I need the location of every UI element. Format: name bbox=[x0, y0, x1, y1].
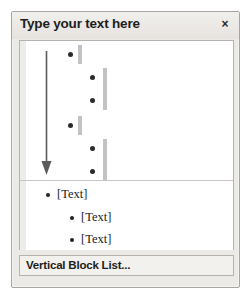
layout-name-bar[interactable]: Vertical Block List... bbox=[19, 255, 234, 276]
page-title: Type your text here bbox=[20, 16, 140, 31]
text-pane-content: [Text][Text][Text] bbox=[19, 40, 234, 250]
preview-block-bar bbox=[78, 116, 82, 135]
down-arrow-icon bbox=[41, 51, 52, 175]
close-icon[interactable]: × bbox=[218, 17, 232, 31]
bullet-icon bbox=[46, 193, 50, 197]
text-entry-region[interactable]: [Text][Text][Text] bbox=[20, 181, 233, 250]
preview-left-strip bbox=[20, 41, 26, 180]
preview-bullet bbox=[90, 75, 95, 80]
preview-bullet bbox=[68, 123, 73, 128]
text-pane-titlebar: Type your text here × bbox=[12, 12, 239, 39]
smartart-text-pane: Type your text here × [Text][Text][Text]… bbox=[11, 11, 240, 288]
preview-block-bar bbox=[103, 68, 107, 110]
preview-bullet bbox=[68, 52, 73, 57]
text-entry-label[interactable]: [Text] bbox=[57, 187, 87, 202]
preview-bullet bbox=[90, 169, 95, 174]
text-entry-row[interactable]: [Text] bbox=[46, 187, 87, 202]
text-entry-label[interactable]: [Text] bbox=[81, 232, 111, 247]
text-entry-label[interactable]: [Text] bbox=[81, 210, 111, 225]
preview-bullet bbox=[90, 98, 95, 103]
bullet-icon bbox=[70, 216, 74, 220]
text-entry-row[interactable]: [Text] bbox=[70, 232, 111, 247]
graphic-preview-region[interactable] bbox=[20, 41, 233, 181]
bullet-icon bbox=[70, 238, 74, 242]
text-left-strip bbox=[20, 181, 26, 250]
preview-bullet bbox=[90, 146, 95, 151]
preview-block-bar bbox=[78, 45, 82, 64]
text-entry-row[interactable]: [Text] bbox=[70, 210, 111, 225]
layout-name-label: Vertical Block List... bbox=[26, 259, 130, 271]
preview-block-bar bbox=[103, 139, 107, 181]
